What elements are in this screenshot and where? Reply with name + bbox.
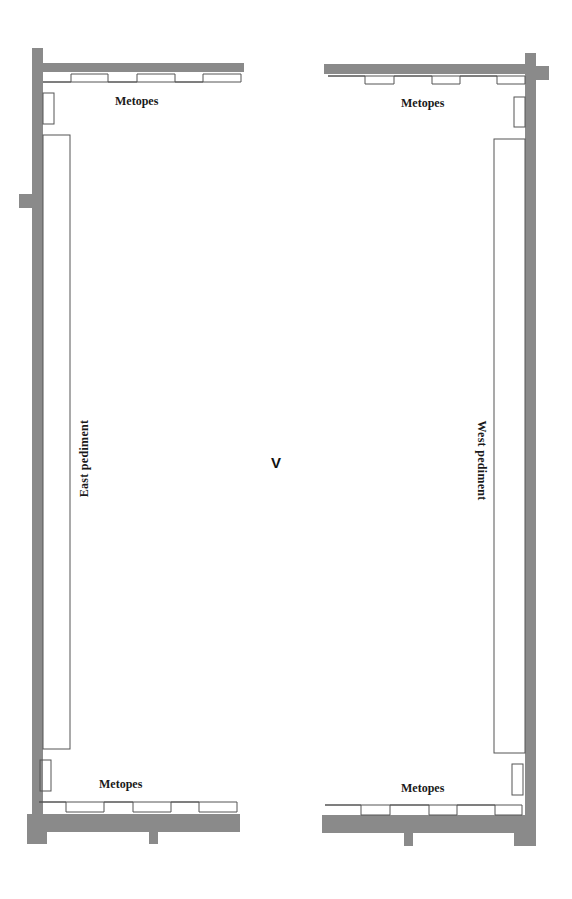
bottom-left-corner-pier xyxy=(27,830,47,844)
bottom-right-mid-pier xyxy=(404,830,413,846)
metope-frieze-bottom-right xyxy=(325,805,522,815)
metopes-label-top-left: Metopes xyxy=(115,94,158,109)
niche-top-left xyxy=(43,93,54,124)
metopes-label-top-right: Metopes xyxy=(401,96,444,111)
bottom-left-wall xyxy=(27,814,240,832)
top-right-wall xyxy=(324,64,525,74)
west-pediment-outline xyxy=(494,139,525,753)
right-wing xyxy=(322,53,549,846)
metopes-label-bottom-left: Metopes xyxy=(99,777,142,792)
metope-frieze-top-left xyxy=(43,74,241,82)
left-buttress xyxy=(19,194,35,208)
west-pediment-label: West pediment xyxy=(474,416,489,506)
bottom-right-wall xyxy=(322,815,533,833)
metopes-label-bottom-right: Metopes xyxy=(401,781,444,796)
east-pediment-outline xyxy=(43,135,70,749)
metope-frieze-top-right xyxy=(328,76,525,84)
left-wing xyxy=(19,48,244,844)
east-pediment-label: East pediment xyxy=(77,414,92,504)
niche-top-right xyxy=(514,97,525,127)
metope-frieze-bottom-left xyxy=(39,802,237,812)
right-wall xyxy=(525,53,536,846)
room-label: V xyxy=(271,454,281,471)
left-wall xyxy=(32,48,43,844)
bottom-right-corner-pier xyxy=(514,830,533,846)
right-top-stub xyxy=(535,66,549,80)
top-left-wall xyxy=(43,63,244,72)
niche-bottom-right xyxy=(512,764,523,795)
bottom-left-mid-pier xyxy=(149,830,158,844)
